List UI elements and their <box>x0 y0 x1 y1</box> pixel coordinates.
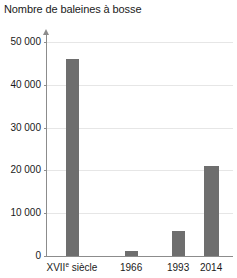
gridline <box>47 42 233 43</box>
y-tick-label: 10 000 <box>10 208 41 218</box>
bar <box>66 59 79 256</box>
y-tick-label: 30 000 <box>10 123 41 133</box>
bar <box>125 251 138 256</box>
plot-area <box>47 42 233 256</box>
x-tick-label-superscript: e <box>65 261 69 268</box>
y-tick-label: 20 000 <box>10 165 41 175</box>
x-tick-label: XVIIe siècle <box>47 262 98 273</box>
x-tick-label: 1966 <box>120 262 142 273</box>
x-axis-line <box>47 256 233 257</box>
chart-title: Nombre de baleines à bosse <box>4 3 141 16</box>
y-tick-label: 40 000 <box>10 80 41 90</box>
y-tick-mark <box>44 256 48 257</box>
bar <box>172 231 185 256</box>
bar <box>204 166 219 256</box>
y-tick-label: 50 000 <box>10 37 41 47</box>
bar-chart: Nombre de baleines à bosse 010 00020 000… <box>0 0 237 278</box>
x-tick-label: 2014 <box>200 262 222 273</box>
x-tick-label: 1993 <box>167 262 189 273</box>
y-tick-label: 0 <box>35 251 41 261</box>
